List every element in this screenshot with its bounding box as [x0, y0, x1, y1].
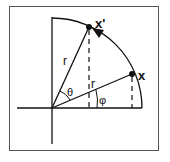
rotation-diagram: x' x r r θ φ	[0, 0, 170, 162]
label-x-prime: x'	[95, 16, 105, 31]
point-x-prime	[86, 24, 92, 30]
label-phi: φ	[99, 94, 106, 106]
label-x: x	[138, 68, 146, 83]
label-r-rotated: r	[63, 54, 67, 68]
phi-angle-arc	[96, 90, 97, 108]
label-r-original: r	[91, 77, 95, 91]
point-x	[129, 71, 135, 77]
label-theta: θ	[67, 86, 73, 98]
